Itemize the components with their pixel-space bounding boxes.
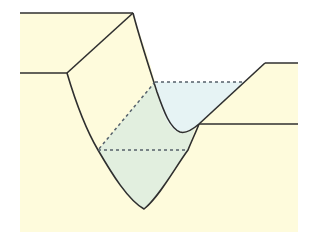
cross-section-diagram <box>0 0 311 238</box>
sky-above-right <box>298 0 311 238</box>
